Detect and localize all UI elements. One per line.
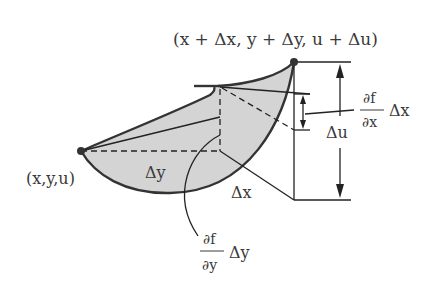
partial-x-arrowhead-up bbox=[300, 95, 306, 104]
partial-x-leader bbox=[305, 110, 354, 114]
delta-u-arrowhead-up bbox=[336, 64, 344, 78]
delta-y-label: Δy bbox=[145, 163, 166, 182]
partial-x-arrowhead-down bbox=[300, 120, 306, 129]
delta-u-label: Δu bbox=[326, 123, 348, 142]
end-point-label: (x + Δx, y + Δy, u + Δu) bbox=[173, 29, 378, 49]
delta-u-arrowhead-down bbox=[336, 184, 344, 198]
partial-y-factor: Δy bbox=[229, 243, 250, 262]
partial-y-numerator: ∂f bbox=[203, 231, 217, 247]
total-differential-diagram: (x + Δx, y + Δy, u + Δu) (x,y,u) Δy Δx Δ… bbox=[0, 0, 435, 296]
partial-x-numerator: ∂f bbox=[363, 90, 377, 106]
partial-x-factor: Δx bbox=[389, 101, 410, 120]
start-point-dot bbox=[77, 147, 85, 155]
partial-x-denominator: ∂x bbox=[362, 114, 377, 130]
start-point-label: (x,y,u) bbox=[26, 169, 75, 188]
delta-x-label: Δx bbox=[231, 183, 252, 202]
partial-y-denominator: ∂y bbox=[202, 257, 217, 273]
end-point-dot bbox=[290, 58, 298, 66]
